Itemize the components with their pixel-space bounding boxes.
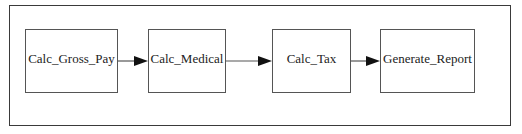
arrow-n1-n2 [117,56,148,66]
node-label: Generate_Report [383,51,472,67]
node-label: Calc_Gross_Pay [28,51,115,67]
node-calc-gross-pay: Calc_Gross_Pay [25,29,118,93]
node-calc-medical: Calc_Medical [148,29,226,93]
arrow-n3-n4 [350,56,380,66]
node-generate-report: Generate_Report [380,29,475,93]
node-label: Calc_Tax [287,51,337,67]
node-calc-tax: Calc_Tax [272,29,351,93]
arrow-n2-n3 [225,56,272,66]
node-label: Calc_Medical [151,51,224,67]
